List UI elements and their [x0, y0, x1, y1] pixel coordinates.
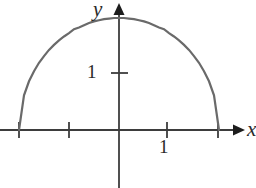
y-axis-label: y	[93, 0, 102, 20]
x-tick-label-1: 1	[159, 137, 169, 156]
x-axis-arrowhead	[233, 125, 245, 136]
figure-container: y x 1 1	[0, 0, 256, 188]
x-axis-label: x	[247, 119, 256, 140]
coordinate-plot	[0, 0, 256, 188]
y-axis-arrowhead	[114, 3, 125, 15]
y-tick-label-1: 1	[87, 62, 97, 81]
